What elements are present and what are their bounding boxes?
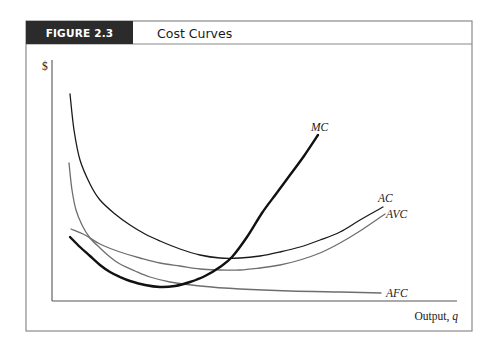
y-axis-label: $ [42, 60, 48, 72]
figure-frame [26, 21, 472, 331]
figure-number: FIGURE 2.3 [46, 27, 114, 39]
x-axis-label: Output, q [415, 310, 459, 323]
label-ac: AC [377, 192, 393, 204]
x-axis-label-var: q [452, 310, 458, 323]
label-afc: AFC [385, 287, 408, 299]
cost-curves-figure: FIGURE 2.3 Cost Curves $ Output, q AC AV… [0, 0, 497, 352]
figure-title: Cost Curves [157, 26, 232, 41]
label-avc: AVC [385, 208, 407, 220]
label-mc: MC [310, 121, 329, 133]
x-axis-label-text: Output, [415, 310, 453, 323]
